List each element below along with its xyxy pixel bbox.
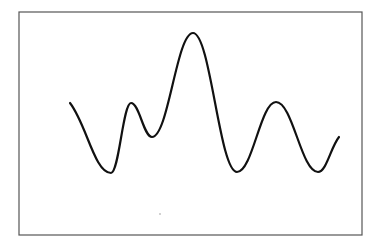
line-chart — [0, 0, 380, 248]
stray-dot — [159, 213, 161, 215]
waveform-line — [70, 33, 339, 173]
plot-frame — [19, 12, 362, 235]
